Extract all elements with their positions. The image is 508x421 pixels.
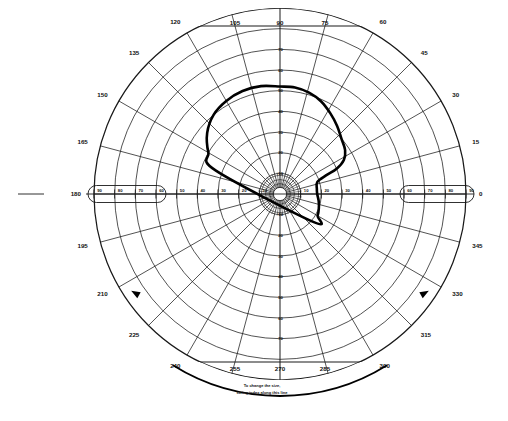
meridian-label-345: 345 [472,242,483,249]
h-tick-label-right-50: 50 [386,188,391,193]
meridian-label-255: 255 [230,365,241,372]
meridian-label-75: 75 [322,19,329,26]
meridian-line-105 [232,14,278,187]
meridian-line-240 [187,200,277,355]
meridian-label-180: 180 [71,190,82,197]
v-tick-label-down-40: 40 [278,274,283,279]
v-tick-label-down-70: 70 [278,336,283,341]
meridian-label-285: 285 [320,365,331,372]
v-tick-label-up-30: 30 [278,130,283,135]
meridian-label-315: 315 [421,331,432,338]
meridian-line-30 [286,101,441,191]
v-tick-label-down-60: 60 [278,316,283,321]
v-tick-label-up-40: 40 [278,109,283,114]
h-tick-label-left-30: 30 [221,188,226,193]
meridian-line-45 [285,62,412,189]
meridian-label-45: 45 [421,49,428,56]
h-tick-label-right-70: 70 [428,188,433,193]
swing-arrow-right [419,288,430,298]
meridian-label-165: 165 [77,138,88,145]
meridian-line-210 [119,197,274,287]
meridian-label-0: 0 [479,190,483,197]
v-tick-label-up-50: 50 [278,88,283,93]
annotation-line2: swing index along this line [237,390,289,395]
isopter-contour[interactable] [206,86,345,225]
meridian-line-135 [148,62,275,189]
meridian-label-105: 105 [230,19,241,26]
h-tick-label-left-60: 60 [159,188,164,193]
h-tick-label-right-60: 60 [407,188,412,193]
h-tick-label-left-80: 80 [118,188,123,193]
h-tick-label-right-40: 40 [366,188,371,193]
meridian-label-30: 30 [452,91,459,98]
meridian-line-150 [119,101,274,191]
meridian-label-120: 120 [170,18,181,25]
h-tick-label-left-50: 50 [180,188,185,193]
meridian-line-120 [187,33,277,188]
meridian-line-300 [283,200,373,355]
v-tick-label-down-50: 50 [278,295,283,300]
meridian-label-225: 225 [129,331,140,338]
meridian-label-150: 150 [97,91,108,98]
meridian-line-330 [286,197,441,287]
swing-annotation: To change the size,swing index along thi… [237,383,289,395]
h-tick-label-right-30: 30 [345,188,350,193]
v-tick-label-down-20: 20 [278,233,283,238]
v-tick-label-up-60: 60 [278,68,283,73]
annotation-line1: To change the size, [244,383,281,388]
meridian-line-285 [282,200,328,373]
meridian-line-255 [232,200,278,373]
h-tick-label-right-10: 10 [304,188,309,193]
swing-arrow-left [130,288,141,298]
visual-field-chart: 9080706050403020101020304050607080907060… [0,0,508,421]
v-tick-label-down-10: 10 [278,212,283,217]
meridian-label-60: 60 [380,18,387,25]
v-tick-label-up-10: 10 [278,171,283,176]
meridian-label-330: 330 [452,290,463,297]
v-tick-label-down-30: 30 [278,254,283,259]
h-tick-label-right-80: 80 [448,188,453,193]
h-tick-label-left-40: 40 [200,188,205,193]
polar-chart-svg: 9080706050403020101020304050607080907060… [0,0,508,421]
h-tick-label-left-90: 90 [97,188,102,193]
v-tick-label-up-20: 20 [278,150,283,155]
meridian-label-270: 270 [275,365,286,372]
meridian-label-135: 135 [129,49,140,56]
v-tick-label-up-70: 70 [278,47,283,52]
meridian-label-210: 210 [97,290,108,297]
meridian-label-15: 15 [472,138,479,145]
meridian-label-195: 195 [77,242,88,249]
h-tick-label-left-70: 70 [138,188,143,193]
meridian-label-90: 90 [277,19,284,26]
h-tick-label-right-20: 20 [324,188,329,193]
meridian-line-225 [148,199,275,326]
h-tick-label-left-10: 10 [262,188,267,193]
